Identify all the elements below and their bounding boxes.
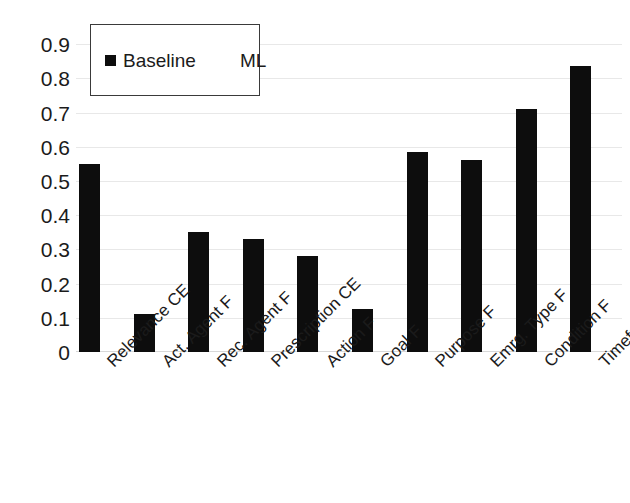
- x-axis-tick-label: Condition F: [541, 358, 553, 370]
- bar-group: [349, 10, 404, 352]
- legend-swatch-baseline-icon: [105, 55, 116, 66]
- y-axis: 0.90.80.70.60.50.40.30.20.10: [8, 0, 70, 503]
- y-axis-tick-label: 0.4: [14, 205, 70, 226]
- bar-chart: 0.90.80.70.60.50.40.30.20.10 Baseline ML…: [0, 0, 630, 503]
- x-axis-tick-label: Emrg. Type F: [487, 358, 499, 370]
- y-axis-tick-label: 0.7: [14, 102, 70, 123]
- legend-label-baseline: Baseline: [123, 51, 196, 70]
- legend: Baseline ML: [90, 24, 260, 96]
- y-axis-tick-label: 0.6: [14, 136, 70, 157]
- bar-baseline: [79, 164, 100, 352]
- x-axis-tick-label: Goal F: [377, 358, 389, 370]
- legend-entry-baseline: Baseline: [105, 51, 196, 70]
- bar-group: [458, 10, 513, 352]
- legend-entry-ml: ML: [222, 51, 266, 70]
- x-axis-tick-label: Rec. Agent F: [214, 358, 226, 370]
- y-axis-tick-label: 0.1: [14, 307, 70, 328]
- x-axis-tick-label: Action F: [323, 358, 335, 370]
- y-axis-tick-label: 0.8: [14, 68, 70, 89]
- y-axis-tick-label: 0.5: [14, 171, 70, 192]
- x-axis-tick-label: Prescription CE: [268, 358, 280, 370]
- legend-label-ml: ML: [240, 51, 266, 70]
- x-axis-tick-label: Act. Agent F: [159, 358, 171, 370]
- x-axis-tick-label: Relevance CE: [104, 358, 116, 370]
- y-axis-tick-label: 0.9: [14, 34, 70, 55]
- bar-group: [404, 10, 459, 352]
- legend-swatch-ml-icon: [222, 55, 233, 66]
- y-axis-tick-label: 0: [14, 342, 70, 363]
- x-axis-tick-label: Purpose F: [432, 358, 444, 370]
- bar-group: [567, 10, 622, 352]
- y-axis-tick-label: 0.2: [14, 273, 70, 294]
- legend-entries: Baseline ML: [91, 25, 259, 95]
- x-axis: Relevance CEAct. Agent FRec. Agent FPres…: [76, 352, 622, 503]
- y-axis-tick-label: 0.3: [14, 239, 70, 260]
- x-axis-tick-label: Timeframe F: [596, 358, 608, 370]
